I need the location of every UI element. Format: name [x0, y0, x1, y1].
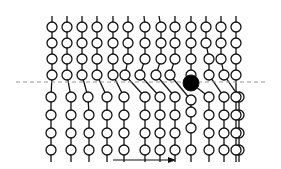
bead — [216, 54, 226, 64]
bead — [155, 145, 165, 155]
bead — [77, 38, 87, 48]
bead — [47, 38, 57, 48]
bead — [201, 38, 211, 48]
bead — [140, 110, 150, 120]
bead — [219, 70, 229, 80]
bead — [170, 92, 180, 102]
bead — [46, 92, 56, 102]
bead — [47, 70, 57, 80]
bead — [66, 128, 76, 138]
bead — [108, 54, 118, 64]
bead — [155, 92, 165, 102]
bead-chain — [216, 16, 244, 162]
bead — [204, 70, 214, 80]
bead — [231, 128, 241, 138]
bead-chain — [92, 16, 112, 162]
bead — [84, 128, 94, 138]
bead — [186, 54, 196, 64]
bead — [140, 145, 150, 155]
highlighted-bead — [183, 75, 199, 91]
bead — [231, 38, 241, 48]
bead — [135, 70, 145, 80]
bead — [204, 145, 214, 155]
bead — [92, 22, 102, 32]
bead — [219, 128, 229, 138]
bead — [46, 145, 56, 155]
bead — [170, 110, 180, 120]
bead — [170, 145, 180, 155]
bead — [155, 110, 165, 120]
bead — [62, 38, 72, 48]
bead — [123, 54, 133, 64]
bead — [186, 123, 196, 133]
filled-bead — [183, 75, 199, 91]
bead-chains — [46, 16, 244, 162]
bead — [92, 38, 102, 48]
bead — [204, 92, 214, 102]
bead — [186, 22, 196, 32]
bead — [140, 128, 150, 138]
bead — [140, 38, 150, 48]
bead — [102, 145, 112, 155]
bead — [155, 128, 165, 138]
bead — [77, 54, 87, 64]
bead — [216, 38, 226, 48]
bead — [219, 110, 229, 120]
bead — [201, 22, 211, 32]
bead — [231, 22, 241, 32]
bead — [151, 70, 161, 80]
bead-chain — [77, 16, 94, 162]
bead — [102, 110, 112, 120]
bead — [119, 128, 129, 138]
bead — [186, 38, 196, 48]
bead — [46, 110, 56, 120]
bead — [123, 22, 133, 32]
bead — [186, 95, 196, 105]
bead — [119, 110, 129, 120]
bead — [62, 54, 72, 64]
bead-chain-diagram — [0, 0, 281, 169]
bead — [186, 145, 196, 155]
bead — [47, 22, 57, 32]
bead — [102, 92, 112, 102]
bead — [204, 128, 214, 138]
bead — [140, 92, 150, 102]
bead — [170, 38, 180, 48]
bead — [84, 145, 94, 155]
bead — [219, 145, 229, 155]
bead — [77, 70, 87, 80]
bead — [46, 128, 56, 138]
bead — [84, 110, 94, 120]
bead — [156, 22, 166, 32]
bead — [47, 54, 57, 64]
bead — [62, 22, 72, 32]
bead — [170, 128, 180, 138]
bead — [123, 38, 133, 48]
bead — [102, 128, 112, 138]
bead — [216, 22, 226, 32]
bead — [156, 38, 166, 48]
bead — [140, 54, 150, 64]
bead — [170, 54, 180, 64]
bead — [66, 145, 76, 155]
bead — [170, 22, 180, 32]
bead-chain — [62, 16, 76, 162]
bead — [231, 70, 241, 80]
bead — [231, 110, 241, 120]
bead — [66, 110, 76, 120]
bead — [92, 70, 102, 80]
bead — [62, 70, 72, 80]
bead — [108, 70, 118, 80]
bead — [108, 38, 118, 48]
bead — [120, 70, 130, 80]
bead — [92, 54, 102, 64]
bead — [108, 22, 118, 32]
bead — [165, 70, 175, 80]
bead — [204, 110, 214, 120]
bead — [66, 92, 76, 102]
bead — [77, 22, 87, 32]
bead — [119, 92, 129, 102]
bead-chain — [201, 16, 229, 162]
bead — [156, 54, 166, 64]
bead — [231, 92, 241, 102]
